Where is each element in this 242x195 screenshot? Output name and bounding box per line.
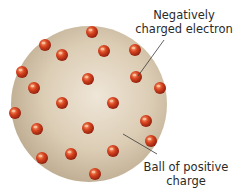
electron-label-line2: charged electron: [128, 22, 240, 36]
electron-label: Negatively charged electron: [128, 8, 240, 36]
electron-highlight: [110, 100, 114, 103]
electron-highlight: [157, 85, 161, 88]
electron-dot: [56, 49, 68, 61]
electron-dot: [86, 26, 98, 38]
electron-highlight: [68, 151, 72, 154]
electron-highlight: [85, 125, 89, 128]
electron-highlight: [39, 155, 43, 158]
electron-highlight: [42, 42, 46, 45]
electron-highlight: [132, 47, 136, 50]
electron-dot: [107, 145, 119, 157]
electron-dot: [16, 66, 28, 78]
electron-dot: [36, 152, 48, 164]
electron-highlight: [12, 110, 16, 113]
electron-highlight: [89, 29, 93, 32]
ball-label-line1: Ball of positive: [132, 160, 240, 174]
plum-pudding-diagram: Negatively charged electron Ball of posi…: [0, 0, 242, 195]
electron-dot: [82, 122, 94, 134]
electron-highlight: [85, 76, 89, 79]
electron-highlight: [143, 118, 147, 121]
electron-dot: [65, 148, 77, 160]
electron-highlight: [133, 74, 137, 77]
electron-dot: [98, 45, 110, 57]
electron-highlight: [31, 85, 35, 88]
electron-highlight: [92, 171, 96, 174]
electron-highlight: [59, 52, 63, 55]
electron-highlight: [101, 48, 105, 51]
electron-highlight: [148, 138, 152, 141]
electron-dot: [56, 97, 68, 109]
electron-dot: [39, 39, 51, 51]
electron-highlight: [34, 126, 38, 129]
ball-label: Ball of positive charge: [132, 160, 240, 188]
electron-highlight: [19, 69, 23, 72]
electron-dot: [9, 107, 21, 119]
electron-highlight: [110, 148, 114, 151]
ball-label-line2: charge: [132, 174, 240, 188]
electron-dot: [107, 97, 119, 109]
electron-dot: [154, 82, 166, 94]
electron-highlight: [59, 100, 63, 103]
electron-label-line1: Negatively: [128, 8, 240, 22]
positive-charge-ball: [11, 26, 167, 182]
electron-dot: [89, 168, 101, 180]
electron-dot: [145, 135, 157, 147]
electron-dot: [129, 44, 141, 56]
electron-dot: [82, 73, 94, 85]
electron-dot: [28, 82, 40, 94]
electron-dot: [140, 115, 152, 127]
electron-dot: [31, 123, 43, 135]
